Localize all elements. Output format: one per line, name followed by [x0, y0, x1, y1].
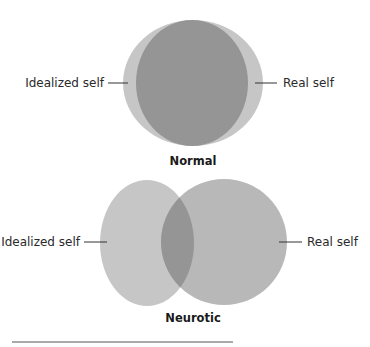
neurotic-diagram: Idealized self Real self Neurotic	[1, 179, 359, 325]
caption-neurotic: Neurotic	[165, 311, 221, 325]
caption-normal: Normal	[170, 154, 217, 168]
label-idealized-self-neurotic: Idealized self	[1, 235, 81, 249]
label-idealized-self-normal: Idealized self	[25, 76, 105, 90]
real-self-circle-normal	[136, 20, 248, 146]
self-diagrams: Idealized self Real self Normal Idealize…	[0, 0, 370, 347]
normal-diagram: Idealized self Real self Normal	[25, 20, 335, 168]
label-real-self-normal: Real self	[283, 76, 335, 90]
label-real-self-neurotic: Real self	[307, 235, 359, 249]
